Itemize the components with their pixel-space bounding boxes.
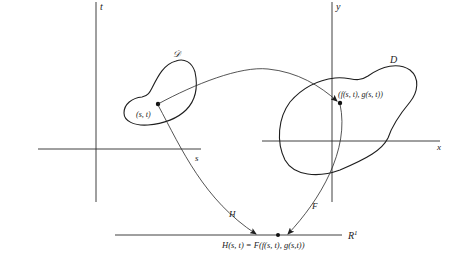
region-script-d-label: 𝒟 <box>173 49 182 59</box>
s-axis-label: s <box>195 153 199 163</box>
point-fg-label: (f(s, t), g(s, t)) <box>338 90 383 99</box>
point-value <box>276 233 280 237</box>
mappings: H F <box>158 69 342 234</box>
h-label: H <box>228 209 236 219</box>
region-script-d <box>124 60 196 125</box>
t-axis-label: t <box>100 1 103 12</box>
f-label: F <box>311 201 318 211</box>
region-d-label: D <box>389 54 398 65</box>
left-plane: t s 𝒟 (s, t) <box>38 1 201 202</box>
arrow-f <box>288 104 342 234</box>
right-plane: y x D (f(s, t), g(s, t)) <box>262 1 441 202</box>
x-axis-label: x <box>436 142 441 152</box>
arrow-st-to-fg <box>158 69 337 104</box>
y-axis-label: y <box>335 1 341 12</box>
r1-label: R1 <box>347 229 358 241</box>
region-d <box>279 66 416 175</box>
real-line: R1 H(s, t) = F(f(s, t), g(s,t)) <box>115 229 358 250</box>
composite-function-diagram: t s 𝒟 (s, t) y x D (f(s, t), g(s, t)) H … <box>0 0 449 257</box>
point-st-label: (s, t) <box>136 110 151 119</box>
arrow-h <box>158 105 256 234</box>
composite-value-label: H(s, t) = F(f(s, t), g(s,t)) <box>221 240 305 250</box>
